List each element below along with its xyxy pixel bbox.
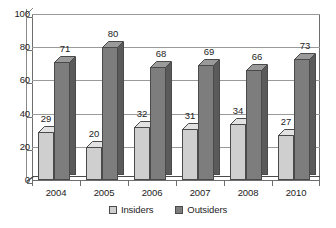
data-label-insiders-2004: 29 bbox=[32, 114, 60, 124]
bar-side-face bbox=[214, 60, 220, 175]
bar-top-face bbox=[198, 59, 214, 65]
legend-item-outsiders[interactable]: Outsiders bbox=[175, 205, 227, 215]
bar-chart: 020406080100 297120803268316934662773 20… bbox=[0, 0, 336, 228]
bar-outsiders-2008 bbox=[246, 64, 262, 180]
bar-front-face bbox=[230, 124, 246, 180]
bar-top-face bbox=[278, 129, 294, 135]
bar-insiders-2006 bbox=[134, 121, 150, 180]
bar-top-face bbox=[102, 41, 118, 47]
bar-insiders-2008 bbox=[230, 118, 246, 180]
bar-front-face bbox=[278, 135, 294, 180]
data-label-outsiders-2004: 71 bbox=[51, 44, 79, 54]
data-label-insiders-2006: 32 bbox=[128, 109, 156, 119]
chart-legend: InsidersOutsiders bbox=[0, 205, 336, 215]
bar-outsiders-2006 bbox=[150, 61, 166, 180]
x-axis-label-2004: 2004 bbox=[32, 187, 80, 198]
bar-front-face bbox=[134, 127, 150, 180]
legend-item-insiders[interactable]: Insiders bbox=[109, 205, 153, 215]
x-axis-tick-2006 bbox=[128, 181, 129, 186]
legend-label: Insiders bbox=[121, 205, 153, 215]
bar-front-face bbox=[198, 65, 214, 180]
bar-top-face bbox=[38, 126, 54, 132]
x-axis-label-2005: 2005 bbox=[80, 187, 128, 198]
data-label-outsiders-2005: 80 bbox=[99, 29, 127, 39]
bar-insiders-2010 bbox=[278, 129, 294, 180]
bar-front-face bbox=[86, 147, 102, 180]
x-axis-label-2007: 2007 bbox=[176, 187, 224, 198]
bar-top-face bbox=[294, 53, 310, 59]
bar-top-face bbox=[134, 121, 150, 127]
bar-side-face bbox=[262, 65, 268, 175]
bar-insiders-2004 bbox=[38, 126, 54, 180]
bar-top-face bbox=[150, 61, 166, 67]
x-axis-tick-2005 bbox=[80, 181, 81, 186]
x-axis-tick-end bbox=[319, 181, 320, 186]
x-axis-tick-2008 bbox=[224, 181, 225, 186]
data-label-insiders-2010: 27 bbox=[272, 117, 300, 127]
bar-top-face bbox=[54, 56, 70, 62]
x-axis-tick-2004 bbox=[32, 181, 33, 186]
bar-side-face bbox=[166, 62, 172, 175]
bar-insiders-2007 bbox=[182, 123, 198, 180]
bar-front-face bbox=[246, 70, 262, 180]
bar-side-face bbox=[70, 57, 76, 175]
bar-top-face bbox=[86, 141, 102, 147]
x-axis-tick-2010 bbox=[272, 181, 273, 186]
data-label-outsiders-2007: 69 bbox=[195, 47, 223, 57]
x-axis-label-2006: 2006 bbox=[128, 187, 176, 198]
x-axis-tick-2007 bbox=[176, 181, 177, 186]
data-label-insiders-2007: 31 bbox=[176, 111, 204, 121]
bar-front-face bbox=[150, 67, 166, 180]
legend-swatch-insiders bbox=[109, 206, 117, 214]
bar-top-face bbox=[182, 123, 198, 129]
bar-front-face bbox=[38, 132, 54, 180]
data-label-outsiders-2006: 68 bbox=[147, 49, 175, 59]
data-label-outsiders-2010: 73 bbox=[291, 41, 319, 51]
bar-front-face bbox=[102, 47, 118, 180]
legend-label: Outsiders bbox=[187, 205, 227, 215]
bar-front-face bbox=[182, 129, 198, 180]
bar-side-face bbox=[118, 42, 124, 175]
data-label-insiders-2008: 34 bbox=[224, 106, 252, 116]
bar-insiders-2005 bbox=[86, 141, 102, 180]
x-axis-label-2008: 2008 bbox=[224, 187, 272, 198]
bar-top-face bbox=[230, 118, 246, 124]
data-label-outsiders-2008: 66 bbox=[243, 52, 271, 62]
x-axis-label-2010: 2010 bbox=[272, 187, 320, 198]
bar-top-face bbox=[246, 64, 262, 70]
bar-side-face bbox=[310, 54, 316, 175]
data-label-insiders-2005: 20 bbox=[80, 129, 108, 139]
legend-swatch-outsiders bbox=[175, 206, 183, 214]
bar-outsiders-2005 bbox=[102, 41, 118, 180]
